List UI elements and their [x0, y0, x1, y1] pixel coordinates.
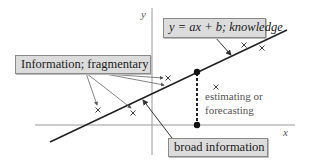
broad-information-box: broad information: [168, 138, 268, 157]
estimating-annotation: estimating or forecasting: [205, 89, 263, 117]
line-point-dot: [194, 69, 200, 75]
knowledge-box-text: y = ax + b; knowledge: [169, 20, 283, 34]
cross-icon: [166, 76, 171, 81]
y-axis-label: y: [141, 8, 146, 20]
axis-point-dot: [194, 122, 200, 128]
knowledge-box: y = ax + b; knowledge: [163, 18, 266, 38]
knowledge-arrow: [215, 37, 231, 55]
annotation-line-2: forecasting: [205, 103, 263, 117]
cross-icon: [260, 46, 265, 51]
fragmentary-box: Information; fragmentary: [15, 55, 151, 74]
fragmentary-box-text: Information; fragmentary: [21, 57, 148, 71]
cross-icon: [96, 108, 101, 113]
cross-icon: [242, 43, 247, 48]
broad-arrow: [143, 100, 172, 138]
cross-icon: [131, 111, 136, 116]
broad-information-box-text: broad information: [174, 140, 265, 154]
x-axis-label: x: [283, 126, 288, 138]
annotation-line-1: estimating or: [205, 89, 263, 103]
